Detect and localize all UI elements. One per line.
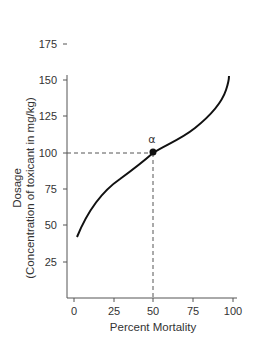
svg-text:75: 75 [187,305,199,317]
svg-text:50: 50 [147,305,159,317]
alpha-point [150,149,157,156]
y-ticks [63,80,67,262]
dose-response-chart: 25 50 75 100 125 150 175 0 25 50 75 100 … [0,0,259,351]
svg-text:Dosage: Dosage [11,168,23,208]
y-tick-labels: 25 50 75 100 125 150 175 [39,38,57,268]
svg-text:125: 125 [39,110,57,122]
svg-text:0: 0 [71,305,77,317]
svg-text:175: 175 [39,38,57,50]
svg-text:(Concentration of toxicant in: (Concentration of toxicant in mg/kg) [24,97,36,279]
svg-text:75: 75 [45,183,57,195]
svg-text:50: 50 [45,219,57,231]
svg-text:100: 100 [39,147,57,159]
x-axis-title: Percent Mortality [110,321,197,333]
svg-text:100: 100 [224,305,242,317]
alpha-label: α [148,133,155,146]
y-axis-title: Dosage (Concentration of toxicant in mg/… [11,97,36,279]
svg-text:150: 150 [39,74,57,86]
svg-text:25: 25 [45,256,57,268]
x-tick-labels: 0 25 50 75 100 [71,305,242,317]
x-ticks [74,298,233,302]
svg-text:25: 25 [108,305,120,317]
